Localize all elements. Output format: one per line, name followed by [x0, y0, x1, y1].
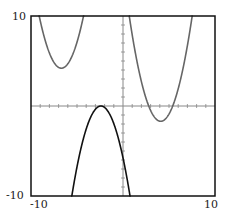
x-min-label: -10	[30, 199, 48, 211]
curve-upper-left-parabola	[38, 16, 84, 68]
y-min-label: -10	[6, 190, 24, 202]
curve-lower-inverted-parabola	[71, 106, 131, 196]
x-max-label: 10	[204, 199, 218, 211]
y-max-label: 10	[12, 11, 26, 23]
graph-plot	[0, 0, 228, 214]
